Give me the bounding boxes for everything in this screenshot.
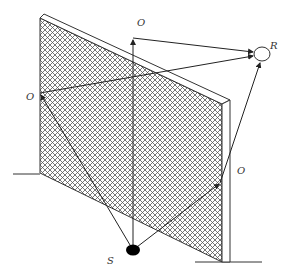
- label-point-right: O: [237, 165, 245, 176]
- label-point-left: O: [26, 91, 34, 102]
- path-top-to-receiver: [133, 38, 253, 52]
- barrier-diagram: R S O O O: [0, 0, 282, 273]
- barrier-wall-side: [222, 100, 230, 262]
- receiver-circle-icon: [254, 47, 270, 61]
- source-dot-icon: [126, 245, 140, 256]
- label-point-top: O: [137, 17, 145, 28]
- label-source: S: [107, 255, 114, 266]
- label-receiver: R: [269, 40, 278, 51]
